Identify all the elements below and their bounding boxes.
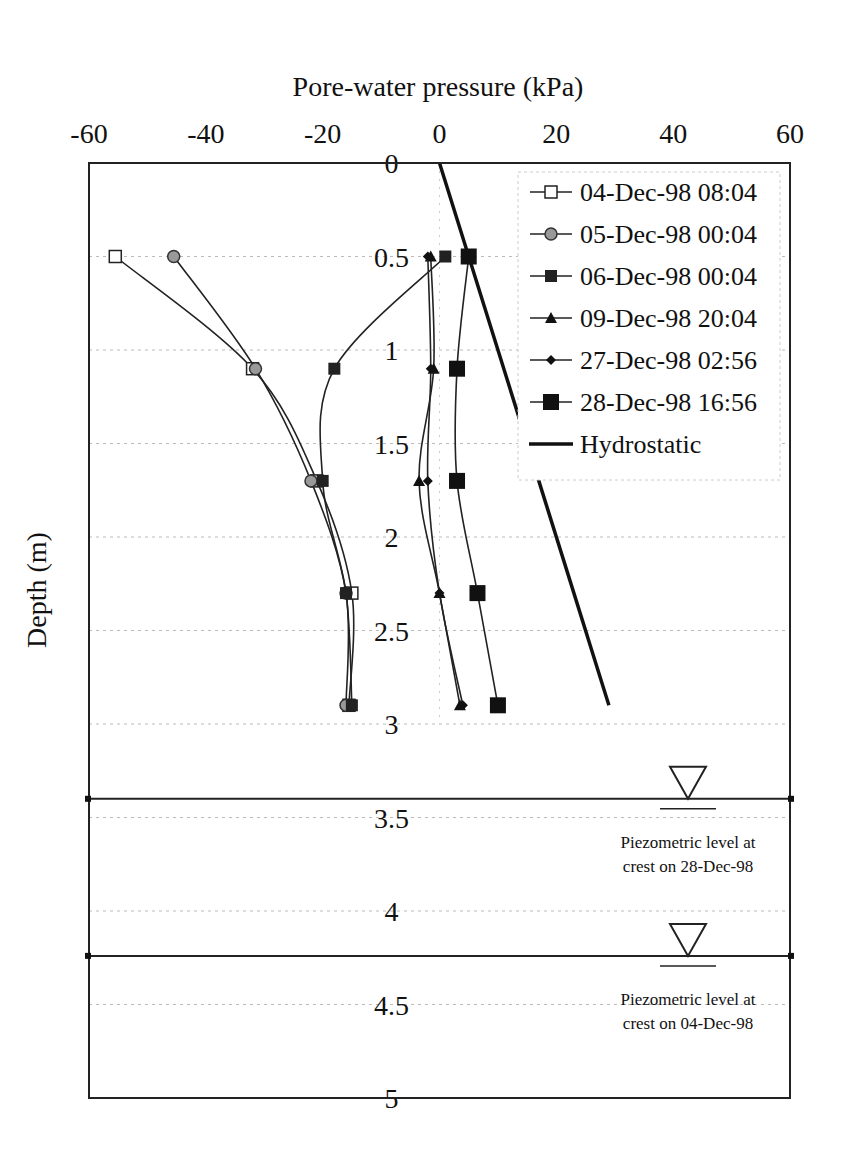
svg-text:06-Dec-98 00:04: 06-Dec-98 00:04 <box>580 262 757 291</box>
svg-text:09-Dec-98 20:04: 09-Dec-98 20:04 <box>580 304 757 333</box>
svg-text:crest on 28-Dec-98: crest on 28-Dec-98 <box>623 857 753 876</box>
x-tick-label: -60 <box>70 118 107 149</box>
y-tick-label: 2.5 <box>374 616 409 647</box>
y-tick-label: 3 <box>385 709 399 740</box>
data-series <box>109 249 506 714</box>
x-tick-label: -40 <box>187 118 224 149</box>
x-tick-label: 60 <box>776 118 804 149</box>
x-axis-title: Pore-water pressure (kPa) <box>293 71 584 102</box>
water-level-icon <box>670 767 706 799</box>
svg-text:04-Dec-98 08:04: 04-Dec-98 08:04 <box>580 178 757 207</box>
x-tick-label: -20 <box>304 118 341 149</box>
svg-text:crest on 04-Dec-98: crest on 04-Dec-98 <box>623 1014 753 1033</box>
y-tick-label: 4 <box>385 896 399 927</box>
svg-text:Hydrostatic: Hydrostatic <box>580 430 701 459</box>
pore-pressure-chart: Pore-water pressure (kPa) -60-40-2002040… <box>0 0 841 1149</box>
y-tick-label: 0.5 <box>374 242 409 273</box>
y-tick-label: 4.5 <box>374 990 409 1021</box>
piezometric-annotations: Piezometric level atcrest on 28-Dec-98Pi… <box>85 767 794 1033</box>
piezometric-level-2: Piezometric level atcrest on 04-Dec-98 <box>85 924 794 1033</box>
x-tick-label: 20 <box>542 118 570 149</box>
x-axis-ticks: -60-40-200204060 <box>70 118 804 149</box>
svg-text:Piezometric level at: Piezometric level at <box>621 990 756 1009</box>
y-tick-label: 2 <box>385 522 399 553</box>
y-tick-label: 1 <box>385 335 399 366</box>
y-tick-label: 3.5 <box>374 803 409 834</box>
piezometric-level-1: Piezometric level atcrest on 28-Dec-98 <box>85 767 794 876</box>
x-tick-label: 40 <box>659 118 687 149</box>
svg-text:Piezometric level at: Piezometric level at <box>621 833 756 852</box>
svg-text:05-Dec-98 00:04: 05-Dec-98 00:04 <box>580 220 757 249</box>
svg-text:27-Dec-98 02:56: 27-Dec-98 02:56 <box>580 346 757 375</box>
y-axis-title: Depth (m) <box>21 532 52 648</box>
water-level-icon <box>670 924 706 956</box>
legend: 04-Dec-98 08:0405-Dec-98 00:0406-Dec-98 … <box>518 172 780 480</box>
series-28-dec-98-16-56 <box>449 249 506 714</box>
x-tick-label: 0 <box>433 118 447 149</box>
y-tick-label: 1.5 <box>374 429 409 460</box>
svg-text:28-Dec-98 16:56: 28-Dec-98 16:56 <box>580 388 757 417</box>
